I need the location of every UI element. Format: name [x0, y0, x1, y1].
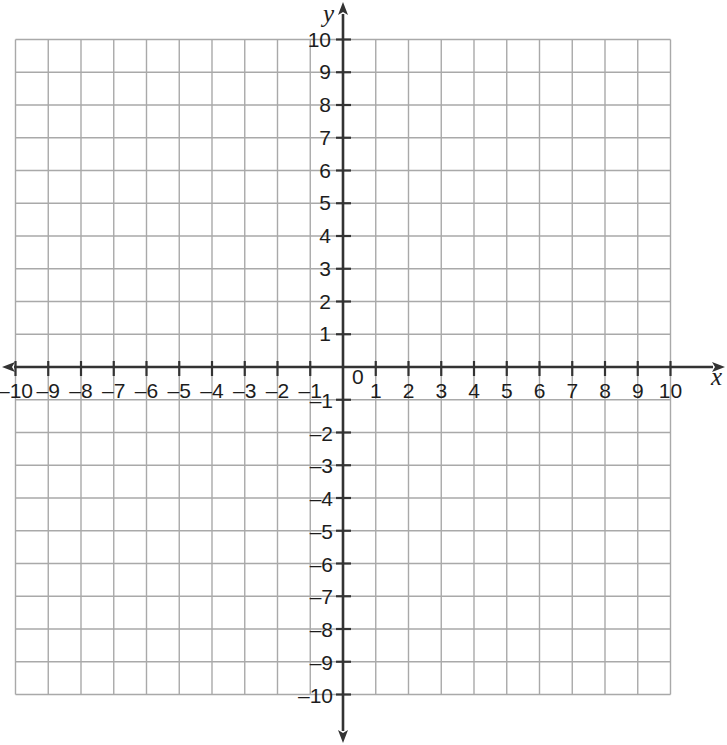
y-tick-label-6: 6	[319, 159, 331, 182]
y-tick-label-4: 4	[319, 224, 331, 247]
x-tick-label-7: 7	[566, 379, 578, 402]
y-tick-label--9: –9	[310, 651, 333, 674]
y-tick-label-7: 7	[319, 126, 331, 149]
x-axis-tick-labels: –10–9–8–7–6–5–4–3–2–112345678910	[0, 379, 682, 402]
x-tick-label-6: 6	[534, 379, 546, 402]
coordinate-plane-figure: –10–9–8–7–6–5–4–3–2–112345678910 1234567…	[0, 0, 727, 745]
y-tick-label--7: –7	[310, 585, 333, 608]
x-tick-label--4: –4	[200, 379, 224, 402]
y-tick-label--10: –10	[298, 684, 333, 707]
x-tick-label-4: 4	[468, 379, 480, 402]
x-tick-label--10: –10	[0, 379, 33, 402]
x-axis-title: x	[710, 363, 722, 390]
y-tick-label-10: 10	[308, 28, 331, 51]
x-tick-label-5: 5	[501, 379, 513, 402]
y-tick-label--6: –6	[310, 553, 333, 576]
y-tick-label-8: 8	[319, 93, 331, 116]
grid-graph-svg: –10–9–8–7–6–5–4–3–2–112345678910 1234567…	[0, 0, 727, 745]
x-tick-label--3: –3	[233, 379, 256, 402]
y-tick-label--4: –4	[310, 487, 334, 510]
x-tick-label-3: 3	[435, 379, 447, 402]
x-tick-label--2: –2	[266, 379, 289, 402]
y-tick-label-1: 1	[319, 322, 331, 345]
x-tick-label--9: –9	[37, 379, 60, 402]
y-tick-label--8: –8	[310, 618, 333, 641]
x-tick-label--8: –8	[69, 379, 92, 402]
x-tick-label--6: –6	[135, 379, 158, 402]
y-tick-label--3: –3	[310, 454, 333, 477]
y-tick-label-9: 9	[319, 60, 331, 83]
y-axis-title: y	[320, 0, 335, 27]
y-tick-label--1: –1	[310, 389, 333, 412]
x-tick-label-1: 1	[370, 379, 382, 402]
y-tick-label--2: –2	[310, 422, 333, 445]
y-tick-label-3: 3	[319, 257, 331, 280]
y-tick-label--5: –5	[310, 520, 333, 543]
x-tick-label-2: 2	[403, 379, 415, 402]
origin-label: 0	[352, 365, 364, 388]
x-tick-label-8: 8	[599, 379, 611, 402]
x-tick-label--7: –7	[102, 379, 125, 402]
x-tick-label--5: –5	[168, 379, 191, 402]
y-tick-label-5: 5	[319, 191, 331, 214]
y-tick-label-2: 2	[319, 290, 331, 313]
x-tick-label-10: 10	[659, 379, 682, 402]
x-tick-label-9: 9	[632, 379, 644, 402]
